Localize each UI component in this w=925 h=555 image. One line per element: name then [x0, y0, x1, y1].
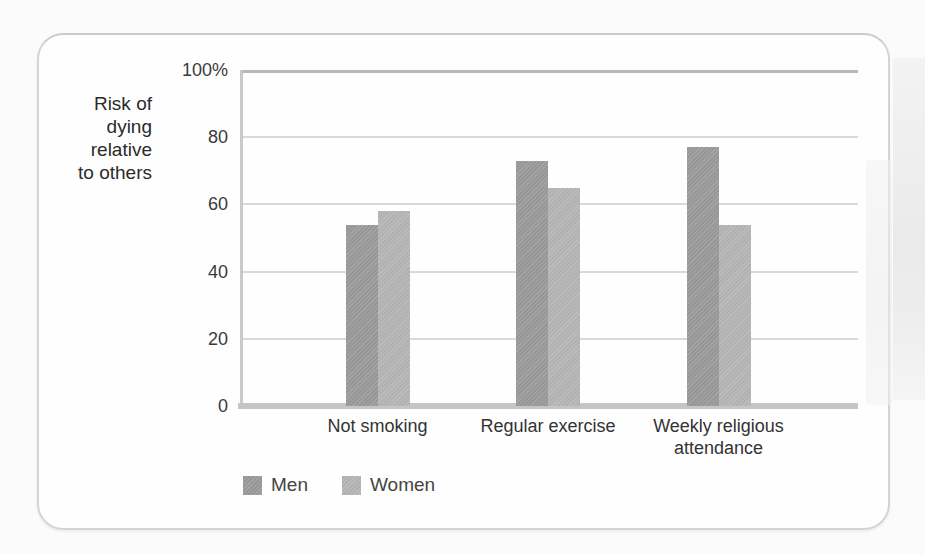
legend-swatch-women	[342, 476, 361, 495]
screenshot-root: Risk of dying relative to others 0204060…	[0, 0, 925, 555]
legend-label-women: Women	[370, 474, 435, 496]
y-tick-60: 60	[150, 193, 228, 215]
y-axis-title: Risk of dying relative to others	[40, 92, 152, 184]
page-edge-smudge	[866, 160, 892, 405]
bar-women-weekly-religious-attendance	[719, 225, 751, 406]
y-axis-title-line: to others	[40, 161, 152, 184]
bar-men-weekly-religious-attendance	[687, 147, 719, 406]
legend-item-men: Men	[243, 474, 308, 496]
bar-women-not-smoking	[378, 211, 410, 406]
y-axis-title-line: Risk of	[40, 92, 152, 115]
y-tick-40: 40	[150, 261, 228, 283]
category-label-not-smoking: Not smoking	[288, 415, 468, 437]
legend-label-men: Men	[271, 474, 308, 496]
y-tick-100: 100%	[150, 59, 228, 81]
gridline-80	[243, 136, 858, 138]
plot-top-border	[240, 70, 858, 73]
plot-area	[240, 70, 858, 406]
y-axis-title-line: dying	[40, 115, 152, 138]
y-axis-line	[240, 70, 243, 406]
category-label-regular-exercise: Regular exercise	[458, 415, 638, 437]
category-label-weekly-religious-attendance: Weekly religious attendance	[629, 415, 809, 459]
legend-swatch-men	[243, 476, 262, 495]
legend-item-women: Women	[342, 474, 435, 496]
y-axis-title-line: relative	[40, 138, 152, 161]
y-tick-20: 20	[150, 328, 228, 350]
y-tick-0: 0	[150, 395, 228, 417]
bar-women-regular-exercise	[548, 188, 580, 406]
bar-men-regular-exercise	[516, 161, 548, 406]
y-tick-80: 80	[150, 126, 228, 148]
bar-men-not-smoking	[346, 225, 378, 406]
page-edge-shading	[893, 58, 925, 400]
legend: MenWomen	[243, 474, 435, 496]
